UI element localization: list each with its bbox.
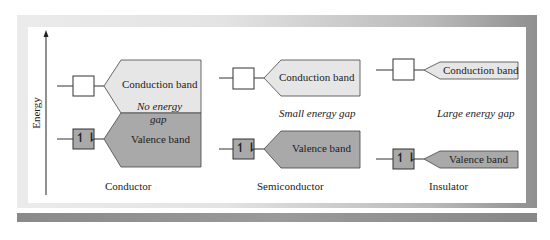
- valence-band-label: Valence band: [449, 153, 508, 165]
- electron-pair-icon: ↿⇂: [75, 130, 97, 146]
- valence-band-label: Valence band: [292, 142, 351, 154]
- conduction-band-label: Conduction band: [279, 71, 354, 83]
- panel-title-conductor: Conductor: [105, 180, 151, 192]
- conduction-band-label: Conduction band: [443, 64, 518, 76]
- valence-band-label: Valence band: [131, 133, 190, 145]
- electron-pair-icon: ↿⇂: [235, 140, 257, 156]
- gap-label: No energy: [137, 100, 182, 112]
- conduction-band-label: Conduction band: [122, 78, 197, 90]
- empty-orbital-icon: [233, 68, 254, 89]
- gap-label: Large energy gap: [437, 107, 514, 119]
- empty-orbital-icon: [73, 76, 94, 96]
- empty-orbital-icon: [393, 59, 414, 80]
- gap-label: Small energy gap: [279, 107, 356, 119]
- electron-pair-icon: ↿⇂: [395, 150, 417, 166]
- panel-title-semiconductor: Semiconductor: [257, 180, 324, 192]
- energy-axis-label: Energy: [30, 93, 42, 133]
- gap-label: gap: [150, 113, 167, 125]
- panel-title-insulator: Insulator: [429, 180, 468, 192]
- axis-arrow-icon: [44, 30, 49, 37]
